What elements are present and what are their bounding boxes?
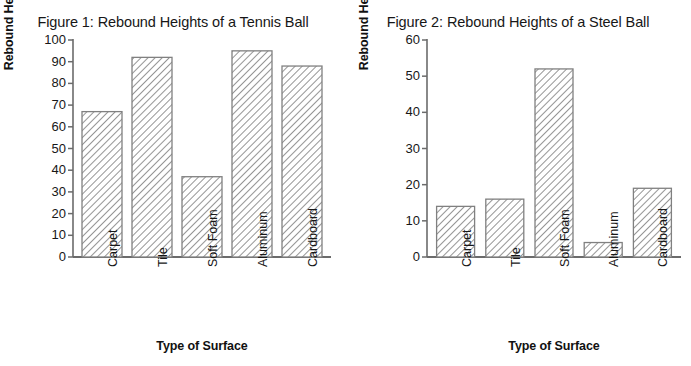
chart-page: Figure 1: Rebound Heights of a Tennis Ba… [0,0,691,366]
y-tick-label: 50 [32,142,66,155]
y-tick-label: 60 [32,120,66,133]
x-tick-label: Soft Foam [207,209,219,267]
x-tick-label: Cardboard [307,208,319,267]
y-tick-label: 90 [32,55,66,68]
y-tick-label: 0 [386,250,420,263]
y-tick-label: 50 [386,69,420,82]
y-tick-label: 10 [32,228,66,241]
figure-2-x-axis-label: Type of Surface [427,339,681,353]
x-tick-label: Tile [510,247,522,267]
x-tick-label: Tile [157,247,169,267]
y-tick-label: 40 [32,163,66,176]
y-tick-label: 100 [32,33,66,46]
x-tick-label: Carpet [461,229,473,267]
y-tick-label: 70 [32,98,66,111]
x-tick-label: Aluminum [608,211,620,267]
y-tick-label: 80 [32,76,66,89]
y-tick-label: 20 [386,178,420,191]
bar [132,57,172,257]
y-tick-label: 30 [32,185,66,198]
figure-2: Figure 2: Rebound Heights of a Steel Bal… [345,0,691,366]
y-tick-label: 10 [386,214,420,227]
x-tick-label: Aluminum [257,211,269,267]
figure-1: Figure 1: Rebound Heights of a Tennis Ba… [0,0,346,366]
y-tick-label: 20 [32,207,66,220]
y-tick-label: 0 [32,250,66,263]
y-tick-label: 30 [386,142,420,155]
y-tick-label: 40 [386,105,420,118]
y-tick-label: 60 [386,33,420,46]
figure-1-x-axis-label: Type of Surface [73,339,331,353]
x-tick-label: Carpet [107,229,119,267]
x-tick-label: Cardboard [657,208,669,267]
x-tick-label: Soft Foam [559,209,571,267]
